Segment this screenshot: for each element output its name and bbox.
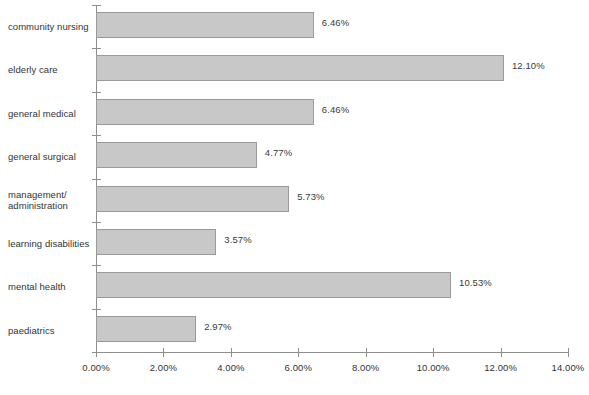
bar-value-label: 3.57% [224, 234, 251, 245]
category-label: learning disabilities [8, 222, 94, 265]
x-axis-tick [366, 348, 367, 357]
bar-chart: 6.46%12.10%6.46%4.77%5.73%3.57%10.53%2.9… [0, 0, 589, 395]
bar[interactable] [96, 55, 504, 81]
category-label-text: elderly care [8, 64, 58, 76]
x-tick-label: 4.00% [217, 362, 244, 373]
bar-row: 5.73% [96, 179, 568, 222]
bar[interactable] [96, 229, 216, 255]
category-label-text: general medical [8, 108, 76, 120]
category-label: general surgical [8, 135, 94, 178]
category-label: management/ administration [8, 179, 94, 222]
category-label: elderly care [8, 48, 94, 91]
bar-value-label: 5.73% [297, 191, 324, 202]
category-label-text: paediatrics [8, 325, 55, 337]
bar-row: 4.77% [96, 135, 568, 178]
category-label-text: general surgical [8, 151, 76, 163]
x-tick-label: 8.00% [352, 362, 379, 373]
bar-value-label: 10.53% [459, 277, 492, 288]
bar[interactable] [96, 99, 314, 125]
x-axis-tick [433, 348, 434, 357]
bar-row: 12.10% [96, 48, 568, 91]
x-axis-tick [96, 348, 97, 357]
x-axis-tick [231, 348, 232, 357]
category-label-text: community nursing [8, 21, 89, 33]
category-label-text: management/ administration [8, 189, 68, 212]
category-label: mental health [8, 265, 94, 308]
category-label: general medical [8, 92, 94, 135]
bar-row: 6.46% [96, 92, 568, 135]
bar[interactable] [96, 186, 289, 212]
x-tick-label: 12.00% [484, 362, 517, 373]
bar[interactable] [96, 12, 314, 38]
x-tick-label: 6.00% [285, 362, 312, 373]
bar[interactable] [96, 142, 257, 168]
bar[interactable] [96, 272, 451, 298]
bar-row: 6.46% [96, 5, 568, 48]
x-tick-label: 14.00% [552, 362, 585, 373]
bar-value-label: 4.77% [265, 147, 292, 158]
x-axis-tick [163, 348, 164, 357]
bar-value-label: 12.10% [512, 60, 545, 71]
bar-row: 2.97% [96, 309, 568, 352]
x-axis-line [96, 352, 568, 353]
bar-row: 3.57% [96, 222, 568, 265]
category-label: community nursing [8, 5, 94, 48]
category-label-text: learning disabilities [8, 238, 89, 250]
bar-value-label: 2.97% [204, 321, 231, 332]
x-axis-tick [298, 348, 299, 357]
x-axis-tick [568, 348, 569, 357]
x-tick-label: 2.00% [150, 362, 177, 373]
category-label-text: mental health [8, 281, 66, 293]
bar-value-label: 6.46% [322, 17, 349, 28]
x-axis-tick [501, 348, 502, 357]
bar-row: 10.53% [96, 265, 568, 308]
plot-area: 6.46%12.10%6.46%4.77%5.73%3.57%10.53%2.9… [96, 5, 568, 352]
x-tick-label: 0.00% [82, 362, 109, 373]
x-tick-label: 10.00% [417, 362, 450, 373]
category-label: paediatrics [8, 309, 94, 352]
bar-value-label: 6.46% [322, 104, 349, 115]
bar[interactable] [96, 316, 196, 342]
